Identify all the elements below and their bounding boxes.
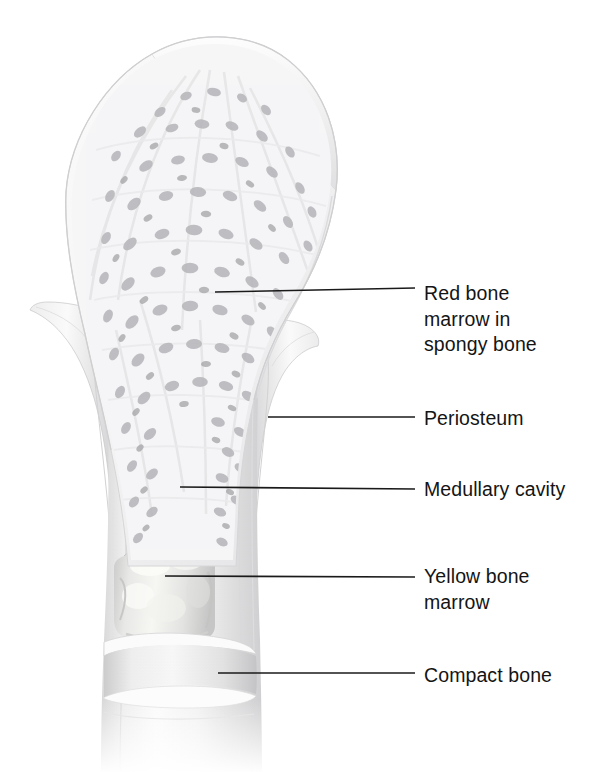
bone-cross-section-illustration	[0, 0, 607, 774]
label-red-bone-marrow: Red bone marrow in spongy bone	[424, 281, 537, 358]
label-yellow-bone-marrow: Yellow bone marrow	[424, 564, 530, 615]
label-medullary-cavity: Medullary cavity	[424, 477, 565, 503]
shaft-fade-out	[90, 700, 275, 774]
label-compact-bone: Compact bone	[424, 663, 552, 689]
label-periosteum: Periosteum	[424, 406, 524, 432]
bone-anatomy-figure: Red bone marrow in spongy bone Periosteu…	[0, 0, 607, 774]
